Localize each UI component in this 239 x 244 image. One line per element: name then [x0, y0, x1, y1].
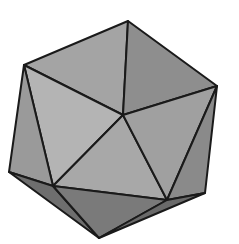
icosahedron-figure	[0, 0, 239, 244]
